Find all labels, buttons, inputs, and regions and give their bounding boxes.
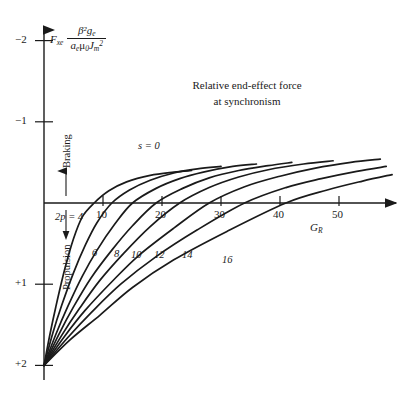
curve-group	[44, 159, 392, 365]
chart-plot-area	[0, 0, 410, 394]
x-axis-tick-label: 40	[273, 209, 284, 220]
curve-label: 2p = 4	[55, 212, 83, 223]
y-axis-fraction: β²ge aeμ0Jm2	[67, 25, 106, 53]
curve-label: 10	[131, 250, 142, 261]
chart-title: Relative end-effect force at synchronism	[172, 78, 322, 110]
y-axis-tick-label: +1	[15, 277, 27, 288]
curve-label: 16	[222, 255, 233, 266]
chart-title-line1: Relative end-effect force	[172, 78, 322, 94]
data-curve	[44, 161, 333, 366]
chart-title-line2: at synchronism	[172, 94, 322, 110]
figure-canvas: Fxe β²ge aeμ0Jm2 Relative end-effect for…	[0, 0, 410, 394]
data-curve	[44, 166, 386, 365]
y-axis-symbol: Fxe	[50, 33, 63, 45]
curve-label: 8	[114, 249, 119, 260]
x-axis-tick-label: 50	[332, 209, 343, 220]
x-axis-tick-label: 10	[96, 209, 107, 220]
braking-label: Braking	[62, 134, 73, 168]
y-axis-tick-label: −2	[15, 34, 27, 45]
x-axis-tick-label: 30	[214, 209, 225, 220]
curve-label: 6	[92, 248, 97, 259]
fraction-numerator: β²ge	[67, 25, 106, 38]
propulsion-arrowhead	[63, 231, 70, 240]
fraction-denominator: aeμ0Jm2	[67, 38, 106, 53]
x-axis-tick-label: 20	[155, 209, 166, 220]
curve-label: 14	[182, 250, 193, 261]
curve-label: 12	[154, 250, 165, 261]
y-axis-title: Fxe β²ge aeμ0Jm2	[50, 25, 106, 53]
slip-annotation: s = 0	[138, 141, 160, 152]
y-axis-tick-label: −1	[15, 115, 27, 126]
x-axis-title: GR	[310, 222, 323, 234]
propulsion-label: Propulsion	[62, 244, 73, 290]
direction-arrows	[63, 171, 70, 240]
y-axis-tick-label: +2	[15, 358, 27, 369]
